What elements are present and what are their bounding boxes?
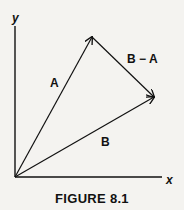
vector-b-minus-a-label: B − A xyxy=(127,52,158,66)
y-axis-label: y xyxy=(11,11,20,25)
vector-diagram: y x A B B − A xyxy=(0,0,184,210)
vector-b-label: B xyxy=(101,135,110,149)
vector-a-arrow xyxy=(15,37,92,177)
vector-b-minus-a-arrow xyxy=(92,37,154,97)
figure-caption: FIGURE 8.1 xyxy=(0,191,184,206)
vector-a-label: A xyxy=(50,76,59,90)
vector-b-arrow xyxy=(15,97,154,177)
x-axis-label: x xyxy=(165,173,174,187)
